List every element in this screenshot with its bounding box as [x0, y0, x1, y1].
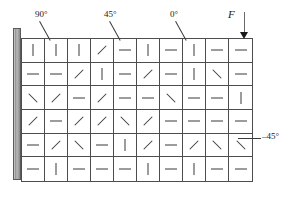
fibre-orientation-mark	[194, 163, 195, 175]
fibre-orientation-mark	[73, 97, 85, 98]
grid-cell	[91, 134, 114, 158]
grid-cell	[45, 39, 68, 63]
fibre-orientation-mark	[119, 73, 131, 74]
grid-cell	[137, 110, 160, 134]
angle-label-45: 45°	[104, 9, 117, 19]
fibre-orientation-mark	[235, 121, 247, 122]
fibre-orientation-mark	[96, 144, 108, 145]
grid-cell	[183, 157, 206, 181]
fibre-orientation-mark	[50, 121, 62, 122]
angle-label-0: 0°	[170, 9, 178, 19]
grid-cell	[229, 39, 252, 63]
fibre-orientation-mark	[74, 69, 83, 78]
grid-cell	[160, 39, 183, 63]
fibre-orientation-diagram: 90° 45° 0° –45° F	[0, 0, 297, 202]
grid-cell	[206, 134, 229, 158]
fibre-orientation-mark	[165, 73, 177, 74]
grid-cell	[114, 134, 137, 158]
grid-cell	[22, 134, 45, 158]
grid-cell	[114, 157, 137, 181]
fibre-orientation-mark	[143, 117, 152, 126]
fibre-orientation-mark	[28, 117, 37, 126]
fibre-orientation-mark	[165, 169, 177, 170]
fibre-orientation-mark	[165, 144, 177, 145]
fibre-orientation-mark	[240, 92, 241, 104]
grid-cell	[206, 110, 229, 134]
grid-cell	[68, 63, 91, 87]
grid-cell	[114, 86, 137, 110]
leader-line-minus45	[238, 138, 261, 139]
fibre-orientation-mark	[97, 117, 106, 126]
fibre-orientation-mark	[211, 97, 223, 98]
fibre-orientation-mark	[51, 140, 60, 149]
grid-cell	[160, 63, 183, 87]
grid-cell	[160, 86, 183, 110]
fibre-orientation-mark	[56, 44, 57, 56]
angle-label-minus45: –45°	[262, 131, 279, 141]
grid-cell	[68, 39, 91, 63]
grid-cell	[114, 39, 137, 63]
grid-cell	[206, 63, 229, 87]
grid-cell	[91, 157, 114, 181]
grid-cell	[22, 110, 45, 134]
grid-cell	[91, 110, 114, 134]
grid-cell	[137, 157, 160, 181]
fibre-orientation-mark	[235, 50, 247, 51]
fibre-orientation-mark	[143, 140, 152, 149]
fibre-orientation-mark	[165, 121, 177, 122]
fibre-orientation-mark	[188, 97, 200, 98]
fibre-orientation-mark	[194, 68, 195, 80]
grid-cell	[114, 63, 137, 87]
grid-cell	[229, 157, 252, 181]
fibre-orientation-mark	[102, 68, 103, 80]
fibre-orientation-mark	[28, 93, 37, 102]
fibre-orientation-mark	[189, 140, 198, 149]
fibre-orientation-mark	[97, 46, 106, 55]
grid-cell	[160, 110, 183, 134]
fibre-orientation-mark	[166, 93, 175, 102]
fibre-orientation-mark	[27, 144, 39, 145]
fibre-orientation-mark	[211, 121, 223, 122]
fibre-orientation-mark	[51, 93, 60, 102]
fibre-orientation-mark	[211, 169, 223, 170]
fibre-orientation-mark	[50, 73, 62, 74]
fibre-orientation-mark	[188, 121, 200, 122]
grid-cell	[229, 110, 252, 134]
grid-cell	[45, 86, 68, 110]
grid-cell	[22, 86, 45, 110]
grid-cell	[22, 39, 45, 63]
grid-cell	[22, 63, 45, 87]
grid-cell	[206, 39, 229, 63]
grid-cell	[68, 157, 91, 181]
grid-cell	[137, 86, 160, 110]
grid-cell	[91, 63, 114, 87]
fibre-orientation-mark	[119, 169, 131, 170]
grid-cell	[183, 134, 206, 158]
fibre-orientation-mark	[148, 44, 149, 56]
fibre-orientation-mark	[73, 169, 85, 170]
grid-cell	[160, 157, 183, 181]
fibre-orientation-mark	[27, 73, 39, 74]
angle-label-90: 90°	[35, 9, 48, 19]
grid-cell	[114, 110, 137, 134]
fibre-orientation-mark	[96, 169, 108, 170]
grid-cell	[68, 134, 91, 158]
fibre-orientation-mark	[235, 73, 247, 74]
fibre-orientation-mark	[212, 69, 221, 78]
grid-cell	[229, 63, 252, 87]
grid-cell	[137, 134, 160, 158]
fibre-orientation-mark	[142, 97, 154, 98]
grid-cell	[91, 39, 114, 63]
force-label-f: F	[228, 8, 235, 20]
fibre-orientation-mark	[212, 140, 221, 149]
grid-cell	[22, 157, 45, 181]
force-arrow-head-icon	[240, 32, 248, 39]
fibre-orientation-mark	[125, 139, 126, 151]
grid-cell	[137, 63, 160, 87]
grid-cell	[68, 86, 91, 110]
fibre-orientation-mark	[165, 50, 177, 51]
fibre-orientation-grid	[21, 38, 253, 182]
fibre-orientation-mark	[120, 117, 129, 126]
grid-cell	[45, 157, 68, 181]
fibre-orientation-mark	[236, 140, 245, 149]
